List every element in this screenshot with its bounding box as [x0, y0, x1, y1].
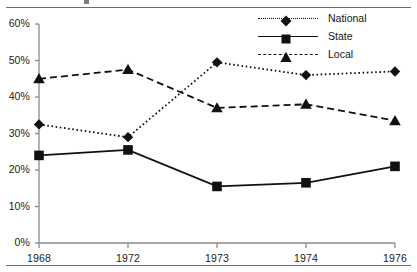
data-point-local-1972 [122, 64, 134, 74]
y-tick-label: 30% [0, 127, 30, 139]
x-tick-label: 1974 [276, 252, 336, 264]
series-line-state [39, 150, 395, 187]
series-line-national [39, 62, 395, 137]
legend-label: Local [328, 47, 353, 62]
data-point-state-1968 [34, 151, 44, 161]
data-point-local-1976 [389, 115, 401, 125]
data-point-state-1973 [212, 182, 222, 192]
data-point-state-1972 [123, 145, 133, 155]
x-tick-label: 1968 [9, 252, 69, 264]
x-tick-label: 1972 [98, 252, 158, 264]
series-line-local [39, 70, 395, 121]
y-tick-label: 0% [0, 236, 30, 248]
legend-item-local[interactable]: Local [256, 47, 411, 62]
legend-item-state[interactable]: State [256, 29, 411, 44]
data-point-national-1976 [390, 66, 400, 76]
chart-legend: NationalStateLocal [256, 11, 411, 65]
y-tick-label: 10% [0, 200, 30, 212]
data-point-national-1973 [212, 57, 222, 67]
legend-label: National [328, 11, 367, 26]
x-tick-label: 1976 [365, 252, 417, 264]
data-point-national-1974 [301, 70, 311, 80]
legend-diamond-icon [280, 13, 292, 25]
data-point-state-1976 [390, 162, 400, 172]
data-point-state-1974 [301, 178, 311, 188]
legend-square-icon [280, 31, 292, 43]
y-tick-label: 40% [0, 90, 30, 102]
data-point-national-1968 [34, 119, 44, 129]
x-tick-label: 1973 [187, 252, 247, 264]
y-tick-label: 20% [0, 163, 30, 175]
legend-item-national[interactable]: National [256, 11, 411, 26]
legend-label: State [328, 29, 353, 44]
data-point-local-1974 [300, 99, 312, 109]
y-tick-label: 50% [0, 54, 30, 66]
data-point-national-1972 [123, 132, 133, 142]
legend-triangle-icon [280, 49, 292, 61]
chart-figure: 0%10%20%30%40%50%60% 1968197219731974197… [0, 0, 417, 272]
y-tick-label: 60% [0, 17, 30, 29]
